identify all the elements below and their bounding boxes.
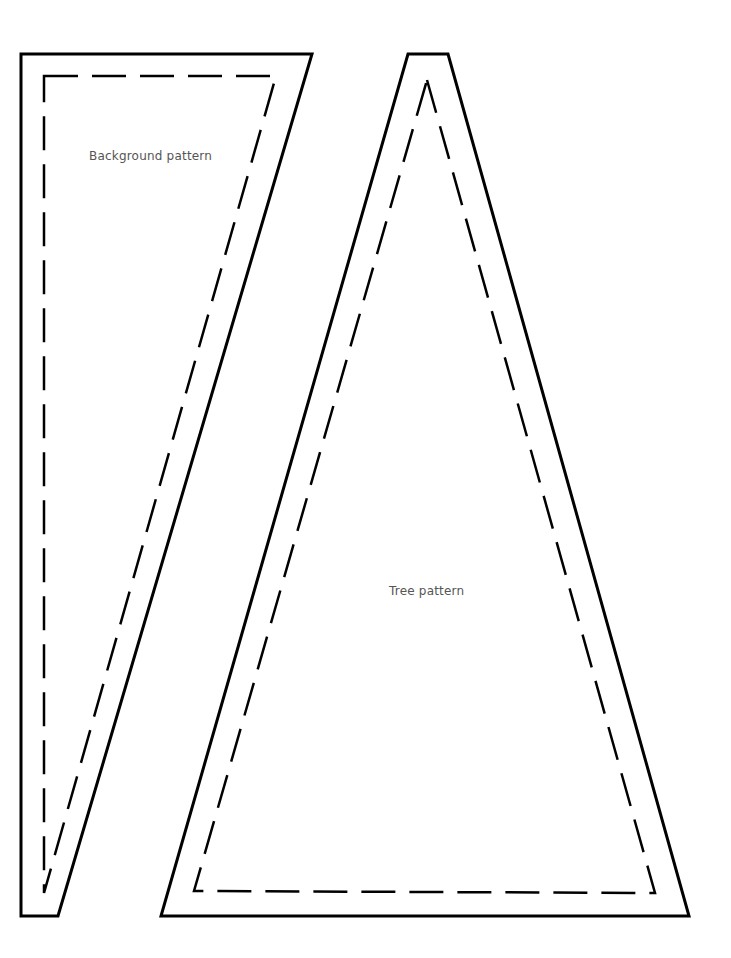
tree-pattern-piece: [161, 54, 689, 916]
background-pattern-piece: [21, 54, 312, 916]
background-pattern-cut-line: [21, 54, 312, 916]
tree-pattern-cut-line: [161, 54, 689, 916]
pattern-sheet: [0, 0, 731, 958]
background-pattern-label: Background pattern: [89, 149, 212, 163]
tree-pattern-label: Tree pattern: [389, 584, 464, 598]
tree-pattern-seam-line: [194, 80, 655, 893]
background-pattern-seam-line: [44, 76, 276, 893]
